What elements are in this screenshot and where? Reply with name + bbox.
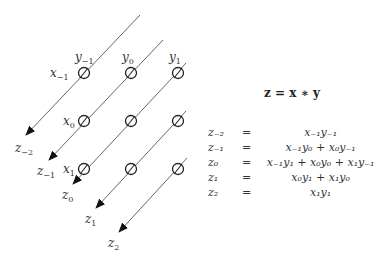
equation-op: = [238,125,255,140]
equations-table: z₋₂=x₋₁y₋₁ z₋₁=x₋₁y₀ + x₀y₋₁ z₀=x₋₁y₁ + … [206,125,386,200]
equation-op: = [238,140,255,155]
label-y-minus-1: y−1 [75,51,94,66]
equation-op: = [238,185,255,200]
label-z-minus-2: z−2 [15,142,33,157]
label-y-0: y0 [122,51,134,66]
label-x-0: x0 [63,115,75,130]
equation-row: z₋₁=x₋₁y₀ + x₀y₋₁ [206,140,386,155]
equation-op: = [238,155,255,170]
label-z-minus-1: z−1 [37,165,55,180]
equation-rhs: x₋₁y₋₁ [255,125,386,140]
label-x-minus-1: x−1 [50,67,69,82]
label-z-0: z0 [62,189,73,204]
equation-rhs: x₋₁y₀ + x₀y₋₁ [255,140,386,155]
equation-rhs: x₁y₁ [255,185,386,200]
equation-row: z₁=x₀y₁ + x₁y₀ [206,170,386,185]
equation-rhs: x₀y₁ + x₁y₀ [255,170,386,185]
equation-lhs: z₂ [206,185,238,200]
equation-lhs: z₀ [206,155,238,170]
equation-lhs: z₁ [206,170,238,185]
diagonal-line-z-1 [96,111,186,208]
label-x-1: x1 [63,163,75,178]
equation-row: z₀=x₋₁y₁ + x₀y₀ + x₁y₋₁ [206,155,386,170]
equation-rhs: x₋₁y₁ + x₀y₀ + x₁y₋₁ [255,155,386,170]
equation-op: = [238,170,255,185]
equation-row: z₂=x₁y₁ [206,185,386,200]
label-z-1: z1 [85,213,96,228]
label-y-1: y1 [169,51,181,66]
equation-lhs: z₋₁ [206,140,238,155]
label-z-2: z2 [108,237,119,252]
diagonal-line-z-minus-1 [49,40,163,160]
equation-title: z = x ∗ y [264,86,320,100]
equation-lhs: z₋₂ [206,125,238,140]
equation-row: z₋₂=x₋₁y₋₁ [206,125,386,140]
